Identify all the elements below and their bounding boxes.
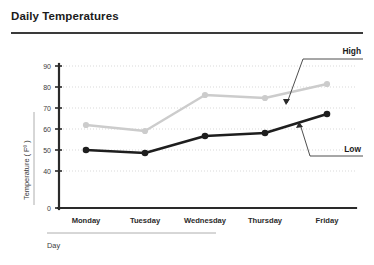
x-tick-label: Wednesday bbox=[184, 216, 227, 225]
annotation-high: High bbox=[283, 46, 363, 105]
annotation-low: Low bbox=[296, 122, 363, 156]
x-axis-title: Day bbox=[47, 241, 60, 250]
y-tick-label: 90 bbox=[43, 63, 51, 70]
y-tick-label: 70 bbox=[43, 105, 51, 112]
chart-card: Daily Temperatures 90 80 bbox=[0, 0, 374, 265]
series-markers-high bbox=[83, 81, 330, 134]
x-tick-label: Monday bbox=[72, 216, 101, 225]
y-tick-label: 40 bbox=[43, 168, 51, 175]
y-axis-title: Temperature ( Fº ) bbox=[22, 140, 31, 200]
y-tick-label: 0 bbox=[47, 205, 51, 212]
x-tick-label: Friday bbox=[316, 216, 340, 225]
annotation-high-label: High bbox=[342, 46, 361, 56]
x-axis-tick-labels: Monday Tuesday Wednesday Thursday Friday bbox=[72, 216, 340, 225]
y-tick-label: 80 bbox=[43, 84, 51, 91]
y-tick-label: 60 bbox=[43, 126, 51, 133]
y-tick-label: 50 bbox=[43, 147, 51, 154]
line-chart: 90 80 70 60 50 40 0 Temperature ( Fº ) bbox=[0, 0, 374, 265]
x-tick-label: Tuesday bbox=[130, 216, 161, 225]
y-axis-tick-labels: 90 80 70 60 50 40 0 bbox=[43, 63, 51, 212]
annotation-low-label: Low bbox=[344, 144, 361, 154]
series-markers-low bbox=[83, 111, 331, 157]
x-tick-label: Thursday bbox=[248, 216, 283, 225]
